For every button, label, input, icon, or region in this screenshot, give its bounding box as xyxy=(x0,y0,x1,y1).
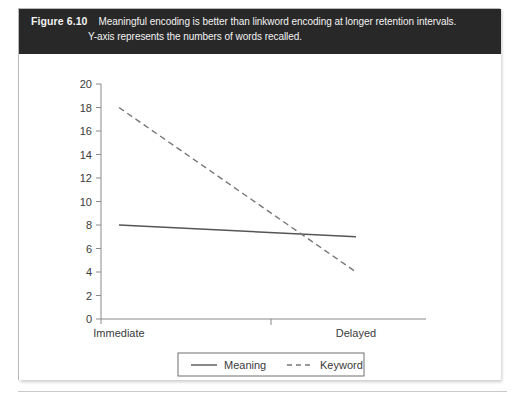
caption-text-line-1: Meaningful encoding is better than linkw… xyxy=(99,16,457,27)
y-axis-ticks: 02468101214161820 xyxy=(80,78,101,325)
data-series-group xyxy=(119,108,356,273)
series-line-meaning xyxy=(119,225,356,237)
legend-label-meaning: Meaning xyxy=(224,359,266,371)
y-tick-label-8: 8 xyxy=(86,219,92,231)
x-axis-ticks xyxy=(101,319,271,325)
y-tick-label-20: 20 xyxy=(80,78,92,90)
x-category-label-immediate: Immediate xyxy=(93,327,144,339)
plot-surface: 02468101214161820 ImmediateDelayed Meani… xyxy=(19,54,501,380)
figure-box: Figure 6.10 Meaningful encoding is bette… xyxy=(18,8,500,380)
y-tick-label-14: 14 xyxy=(80,149,92,161)
chart-legend: MeaningKeyword xyxy=(178,353,364,376)
figure-number-label: Figure 6.10 xyxy=(31,15,88,27)
y-tick-label-0: 0 xyxy=(86,313,92,325)
y-tick-label-18: 18 xyxy=(80,102,92,114)
caption-first-line: Figure 6.10 Meaningful encoding is bette… xyxy=(31,15,491,27)
x-category-label-delayed: Delayed xyxy=(336,327,376,339)
y-tick-label-6: 6 xyxy=(86,243,92,255)
y-tick-label-10: 10 xyxy=(80,196,92,208)
y-tick-label-12: 12 xyxy=(80,172,92,184)
y-tick-label-16: 16 xyxy=(80,125,92,137)
series-line-keyword xyxy=(119,108,356,273)
y-tick-label-4: 4 xyxy=(86,266,92,278)
line-chart: 02468101214161820 ImmediateDelayed Meani… xyxy=(19,54,501,380)
caption-text-line-2: Y-axis represents the numbers of words r… xyxy=(88,31,491,42)
page-separator-rule xyxy=(18,391,507,392)
y-tick-label-2: 2 xyxy=(86,290,92,302)
figure-caption-header: Figure 6.10 Meaningful encoding is bette… xyxy=(19,9,501,54)
x-axis-labels: ImmediateDelayed xyxy=(93,327,376,339)
legend-label-keyword: Keyword xyxy=(320,359,363,371)
